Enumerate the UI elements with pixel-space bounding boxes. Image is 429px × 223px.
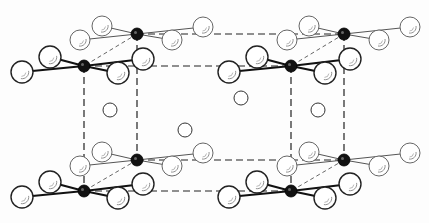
ligand-circle	[299, 16, 319, 36]
metal-highlight	[134, 157, 137, 160]
interstitial-atom	[234, 91, 248, 105]
ligand-atom	[400, 17, 420, 37]
ligand-atom	[369, 30, 389, 50]
metal-atom	[285, 60, 297, 72]
ligand-atom	[246, 171, 268, 193]
metal-highlight	[288, 63, 291, 66]
interstitial-atoms	[103, 91, 325, 137]
ligand-atom	[314, 62, 336, 84]
ligand-atom	[339, 48, 361, 70]
ligand-atom	[162, 156, 182, 176]
interstitial-atom	[311, 103, 325, 117]
ligand-atom	[92, 142, 112, 162]
ligand-atoms	[11, 16, 420, 209]
metal-atom	[78, 185, 90, 197]
ligand-circle	[132, 173, 154, 195]
ligand-circle	[107, 62, 129, 84]
ligand-circle	[70, 156, 90, 176]
ligand-circle	[92, 142, 112, 162]
ligand-circle	[246, 46, 268, 68]
ligand-atom	[299, 16, 319, 36]
metal-highlight	[341, 31, 344, 34]
metal-atom	[131, 28, 143, 40]
ligand-circle	[218, 186, 240, 208]
ligand-circle	[39, 46, 61, 68]
ligand-atom	[299, 142, 319, 162]
ligand-atom	[277, 156, 297, 176]
interstitial-atom	[178, 123, 192, 137]
ligand-circle	[314, 62, 336, 84]
ligand-atom	[70, 30, 90, 50]
ligand-circle	[400, 143, 420, 163]
metal-atom	[338, 28, 350, 40]
ligand-circle	[369, 156, 389, 176]
metal-atom	[131, 154, 143, 166]
metal-highlight	[81, 63, 84, 66]
ligand-atom	[70, 156, 90, 176]
ligand-circle	[107, 187, 129, 209]
ligand-circle	[277, 156, 297, 176]
ligand-circle	[70, 30, 90, 50]
metal-atom	[338, 154, 350, 166]
ligand-circle	[162, 30, 182, 50]
ligand-circle	[299, 142, 319, 162]
ligand-atom	[39, 171, 61, 193]
ligand-circle	[193, 143, 213, 163]
ligand-atom	[39, 46, 61, 68]
interstitial-atom	[103, 103, 117, 117]
ligand-atom	[11, 61, 33, 83]
ligand-circle	[339, 173, 361, 195]
ligand-atom	[193, 17, 213, 37]
ligand-atom	[400, 143, 420, 163]
ligand-atom	[314, 187, 336, 209]
ligand-atom	[277, 30, 297, 50]
metal-atoms	[78, 28, 350, 197]
ligand-atom	[92, 16, 112, 36]
ligand-circle	[162, 156, 182, 176]
ligand-circle	[277, 30, 297, 50]
ligand-atom	[339, 173, 361, 195]
unit-cell-dashed-box	[84, 34, 344, 191]
ligand-circle	[218, 61, 240, 83]
ligand-circle	[193, 17, 213, 37]
ligand-atom	[193, 143, 213, 163]
ligand-circle	[369, 30, 389, 50]
ligand-atom	[132, 173, 154, 195]
metal-highlight	[288, 188, 291, 191]
ligand-circle	[92, 16, 112, 36]
metal-atom	[78, 60, 90, 72]
metal-highlight	[341, 157, 344, 160]
ligand-atom	[107, 62, 129, 84]
ligand-circle	[314, 187, 336, 209]
ligand-atom	[218, 61, 240, 83]
ligand-atom	[246, 46, 268, 68]
ligand-circle	[339, 48, 361, 70]
ligand-atom	[11, 186, 33, 208]
ligand-atom	[132, 48, 154, 70]
crystal-structure-diagram	[0, 0, 429, 223]
metal-highlight	[134, 31, 137, 34]
lattice-drawing	[0, 0, 429, 223]
ligand-circle	[246, 171, 268, 193]
ligand-circle	[400, 17, 420, 37]
ligand-circle	[132, 48, 154, 70]
ligand-circle	[39, 171, 61, 193]
metal-atom	[285, 185, 297, 197]
ligand-atom	[107, 187, 129, 209]
ligand-atom	[218, 186, 240, 208]
ligand-atom	[369, 156, 389, 176]
metal-highlight	[81, 188, 84, 191]
ligand-circle	[11, 186, 33, 208]
ligand-atom	[162, 30, 182, 50]
ligand-circle	[11, 61, 33, 83]
